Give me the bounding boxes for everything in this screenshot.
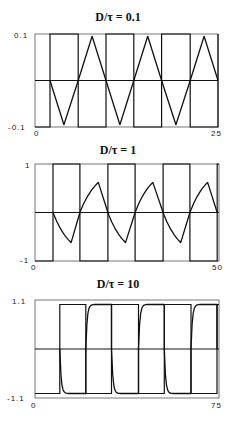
panel-3-x-right-label: 75 (211, 401, 222, 410)
panel-1-plot (35, 34, 218, 127)
panel-3-x-left-label: 0 (31, 401, 36, 410)
panel-3-y-top-label: 1.1 (12, 297, 26, 306)
panel-2-x-right-label: 50 (212, 263, 223, 272)
panel-1-y-top-label: 0.1 (14, 31, 28, 40)
panel-2-x-left-label: 0 (31, 263, 36, 272)
panel-3-y-bottom-label: -1.1 (7, 394, 25, 403)
panel-3: 1.1 -1.1 0 75 (7, 297, 222, 410)
panel-1-x-right-label: 25 (211, 129, 222, 138)
panel-2: 1 -1 0 50 (20, 161, 223, 272)
panel-2-y-bottom-label: -1 (20, 256, 29, 265)
panel-2-y-top-label: 1 (25, 161, 30, 170)
panel-2-plot (35, 164, 219, 261)
charts-canvas: 0.1 -0.1 0 25 1 -1 0 50 1.1 -1.1 0 75 (0, 0, 236, 421)
panel-1: 0.1 -0.1 0 25 (8, 31, 222, 138)
panel-1-x-left-label: 0 (34, 129, 39, 138)
panel-1-y-bottom-label: -0.1 (8, 123, 26, 132)
panel-3-plot (35, 305, 219, 394)
